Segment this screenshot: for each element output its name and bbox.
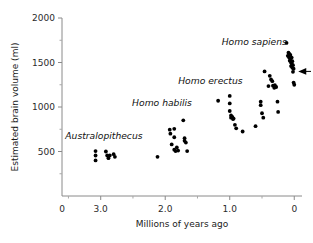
x-tick-label: 2.0 xyxy=(158,204,173,214)
data-point xyxy=(168,132,172,136)
data-point xyxy=(259,103,263,107)
data-point xyxy=(216,99,220,103)
data-point xyxy=(184,141,188,145)
y-tick-label: 1500 xyxy=(32,58,55,68)
data-point xyxy=(292,67,296,71)
data-point xyxy=(274,85,278,89)
data-point xyxy=(172,127,176,131)
data-point xyxy=(94,154,98,158)
data-point xyxy=(156,155,160,159)
data-point xyxy=(292,83,296,87)
data-point xyxy=(233,123,237,127)
x-origin-label: 0 xyxy=(59,204,65,214)
chart-canvas: 5001000150020003.02.01.000Millions of ye… xyxy=(0,0,313,243)
x-tick-label: 1.0 xyxy=(223,204,238,214)
data-point xyxy=(263,70,267,74)
y-tick-label: 1000 xyxy=(32,102,55,112)
data-point xyxy=(290,59,294,63)
series-homo-erectus xyxy=(216,94,265,133)
data-point xyxy=(241,130,245,134)
y-axis-title: Estimated brain volume (ml) xyxy=(10,43,20,172)
data-point xyxy=(185,149,189,153)
series-homo-habilis xyxy=(156,118,189,158)
data-point xyxy=(94,159,98,163)
data-point xyxy=(108,154,112,158)
data-point xyxy=(276,110,280,114)
data-point xyxy=(170,142,174,146)
data-point xyxy=(228,102,232,106)
y-tick-label: 500 xyxy=(38,147,55,157)
data-point xyxy=(168,128,172,132)
data-point xyxy=(232,117,236,121)
y-tick-label: 2000 xyxy=(32,13,55,23)
species-label-homo-sapiens: Homo sapiens xyxy=(222,36,287,47)
species-label-australopithecus: Australopithecus xyxy=(64,130,142,141)
data-point xyxy=(268,74,272,78)
data-point xyxy=(270,79,274,83)
species-label-homo-habilis: Homo habilis xyxy=(132,97,192,108)
brain-volume-scatter-figure: 5001000150020003.02.01.000Millions of ye… xyxy=(0,0,313,243)
x-tick-label: 3.0 xyxy=(94,204,109,214)
data-point xyxy=(267,84,271,88)
annotation-arrow-head xyxy=(298,68,306,75)
data-point xyxy=(276,100,280,104)
data-point xyxy=(104,150,108,154)
data-point xyxy=(261,116,265,120)
x-axis-title: Millions of years ago xyxy=(136,219,229,229)
data-point xyxy=(172,135,176,139)
data-point xyxy=(290,56,294,60)
x-tick-label: 0 xyxy=(291,204,297,214)
data-point xyxy=(94,149,98,153)
series-australopithecus xyxy=(94,149,117,162)
series-homo-sapiens xyxy=(263,41,296,114)
data-point xyxy=(259,100,263,104)
data-point xyxy=(254,124,258,128)
species-label-homo-erectus: Homo erectus xyxy=(178,75,243,86)
data-point xyxy=(228,94,232,98)
data-point xyxy=(260,111,264,115)
data-point xyxy=(291,63,295,67)
data-point xyxy=(181,118,185,122)
data-point xyxy=(228,109,232,113)
data-point xyxy=(113,155,117,159)
data-point xyxy=(234,126,238,130)
data-point xyxy=(176,149,180,153)
